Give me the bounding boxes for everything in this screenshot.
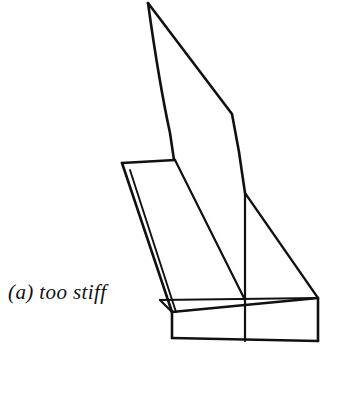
figure-caption: (a) too stiff (8, 279, 107, 305)
figure-container: (a) too stiff (0, 0, 361, 398)
technical-sketch (0, 0, 361, 398)
